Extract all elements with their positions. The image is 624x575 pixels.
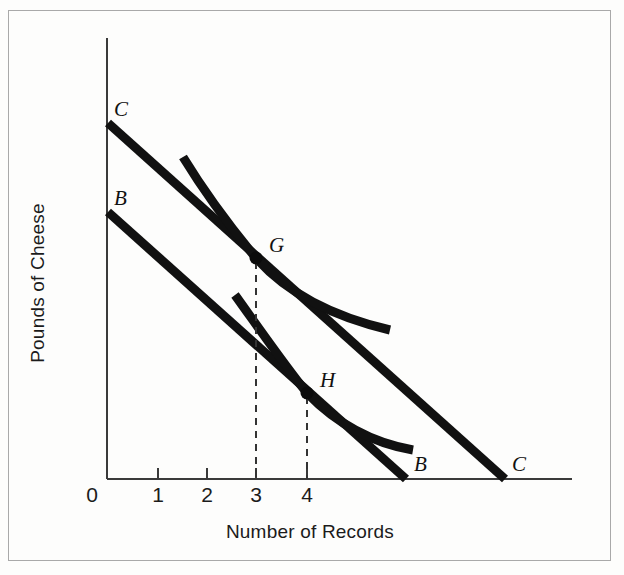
label-budget-b-bottom: B xyxy=(414,452,427,477)
label-budget-c-top: C xyxy=(114,97,128,122)
x-tick-label-2: 2 xyxy=(192,483,222,507)
x-tick-label-1: 1 xyxy=(143,483,173,507)
point-h-marker xyxy=(301,387,314,400)
x-axis-ticks xyxy=(158,468,307,479)
label-point-g: G xyxy=(269,233,284,258)
point-g-marker xyxy=(250,252,263,265)
x-tick-label-0: 0 xyxy=(77,483,107,507)
x-axis-title: Number of Records xyxy=(160,521,460,543)
figure-root: C B B C G H 0 1 2 3 4 Pounds of Cheese N… xyxy=(0,0,624,575)
x-tick-label-3: 3 xyxy=(241,483,271,507)
label-budget-b-top: B xyxy=(114,186,127,211)
label-point-h: H xyxy=(320,368,335,393)
y-axis-title: Pounds of Cheese xyxy=(27,173,49,393)
label-budget-c-bottom: C xyxy=(512,452,526,477)
x-tick-label-4: 4 xyxy=(292,483,322,507)
